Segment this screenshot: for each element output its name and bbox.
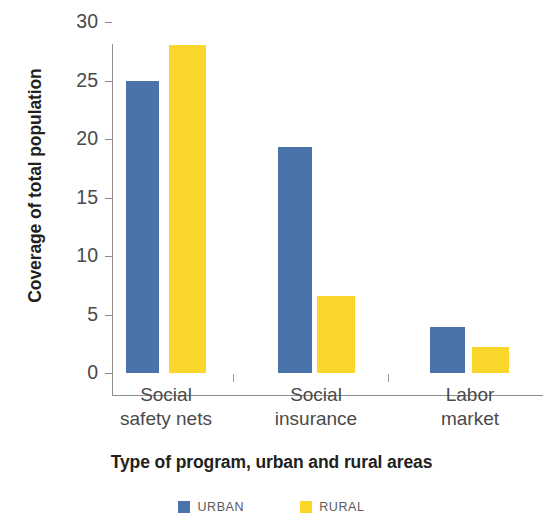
category-label-line: Labor xyxy=(400,383,540,407)
category-label-line: Social xyxy=(96,383,236,407)
category-label-line: market xyxy=(400,407,540,431)
category-label-labor-market: Labor market xyxy=(400,383,540,431)
bar-urban-labor-market[interactable] xyxy=(430,327,465,373)
category-label-line: Social xyxy=(246,383,386,407)
x-axis-separator xyxy=(388,374,389,382)
bars-layer xyxy=(0,0,543,373)
chart-legend: URBAN RURAL xyxy=(0,500,543,514)
bar-chart-figure: Coverage of total population 30 25 20 15… xyxy=(0,0,543,515)
legend-swatch-icon xyxy=(178,501,190,513)
y-tick-mark xyxy=(105,373,112,374)
legend-item-rural[interactable]: RURAL xyxy=(300,500,364,514)
legend-label: RURAL xyxy=(319,500,364,514)
bar-urban-social-insurance[interactable] xyxy=(278,147,312,373)
bar-urban-social-safety-nets[interactable] xyxy=(126,81,159,374)
y-tick-0: 0 xyxy=(0,373,112,374)
bar-rural-social-insurance[interactable] xyxy=(317,296,355,373)
category-label-line: safety nets xyxy=(96,407,236,431)
category-label-line: insurance xyxy=(246,407,386,431)
legend-label: URBAN xyxy=(197,500,244,514)
category-label-social-insurance: Social insurance xyxy=(246,383,386,431)
x-axis-title: Type of program, urban and rural areas xyxy=(0,452,543,473)
legend-item-urban[interactable]: URBAN xyxy=(178,500,244,514)
legend-swatch-icon xyxy=(300,501,312,513)
bar-rural-social-safety-nets[interactable] xyxy=(169,45,206,373)
category-label-social-safety-nets: Social safety nets xyxy=(96,383,236,431)
x-axis-separator xyxy=(233,374,234,382)
bar-rural-labor-market[interactable] xyxy=(472,347,509,373)
